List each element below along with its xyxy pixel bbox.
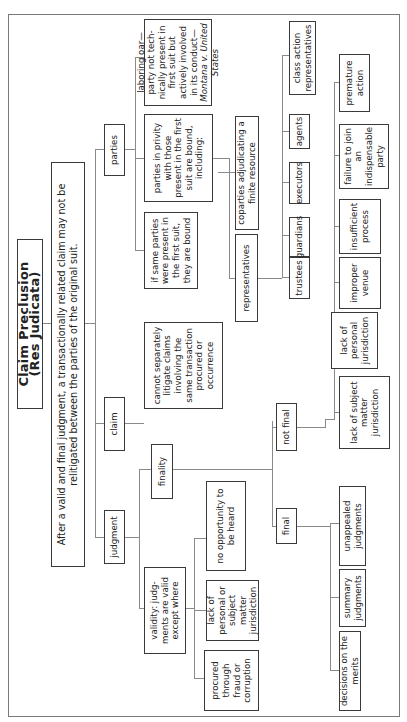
final-item-decisions-on-merits: decisions on the merits [339,631,361,711]
not-final-node: not final [276,403,297,451]
validity-exception-jurisdiction: lack of personal or subject matter juris… [206,580,259,641]
rep-type-agents: agents [289,114,310,149]
claim-preclusion-diagram: Claim Preclusion (Res Judicata) After a … [8,14,400,717]
connector [334,82,335,420]
connector [282,235,289,236]
not-final-item-subject-matter-jurisdiction: lack of subject matter jurisdiction [339,376,390,449]
connector [186,608,194,609]
connector [43,323,51,324]
laboring-oar-case: Montana v. United States [199,23,220,102]
connector [282,277,289,278]
connector [282,182,289,183]
validity-node: validity: judg-ments are valid except wh… [144,567,186,654]
laboring-oar-text: laboring oar—party not tech-nically pres… [136,23,200,102]
rep-type-trustees: trustees [289,257,310,299]
not-final-item-premature-action: premature action [339,54,370,112]
rep-type-guardians: guardians [289,217,310,257]
connector [125,537,139,538]
not-final-item-insufficient-process: insufficient process [339,199,381,254]
connector [139,469,140,609]
connector [139,469,151,470]
connector [194,538,206,539]
final-node: final [276,508,297,544]
not-final-item-personal-jurisdiction: lack of personal jurisdiction [331,312,378,369]
coparties-node: coparties adjudicating a finite resource [235,116,259,230]
claim-node: claim [104,397,125,451]
connector [194,678,204,679]
not-final-item-failure-to-join: failure to join an indispensable party [339,124,389,189]
laboring-oar-rule: laboring oar—party not tech-nically pres… [144,19,212,106]
connector [95,423,104,424]
connector [330,670,339,671]
same-parties-rule: if same parties were present in the firs… [144,212,198,289]
connector [325,419,334,420]
validity-exception-fraud: procured through fraud or corruption [204,650,259,711]
connector [272,421,273,527]
parties-node: parties [104,124,125,176]
connector [125,149,135,150]
connector [297,427,325,428]
connector [125,423,144,424]
final-item-unappealed-judgments: unappealed judgments [339,486,366,566]
diagram-title: Claim Preclusion (Res Judicata) [17,239,43,409]
connector [282,131,289,132]
connector [297,526,330,527]
connector [330,523,339,524]
connector [135,250,144,251]
claim-rule: cannot separately litigate claims involv… [144,322,223,409]
final-item-summary-judgments: summary judgments [339,569,366,627]
judgment-node: judgment [104,510,125,564]
connector [218,172,235,173]
not-final-item-improper-venue: improper venue [339,257,381,309]
connector [194,610,206,611]
connector [330,597,339,598]
connector [282,55,283,278]
subtitle-line-2: relitigated between the parties of the o… [68,243,81,485]
rep-type-class-action: class action representatives [289,21,316,95]
connector [95,149,96,538]
finality-node: finality [151,444,173,499]
rep-type-executors: executors [289,162,310,204]
connector [95,537,104,538]
diagram-subtitle: After a valid and final judgment, a tran… [51,162,85,567]
connector [95,149,104,150]
connector [135,158,144,159]
connector [85,323,95,324]
connector [173,469,272,470]
subtitle-line-1: After a valid and final judgment, a tran… [56,184,69,546]
connector [194,538,195,679]
connector [213,158,229,159]
connector [258,278,282,279]
privity-rule: parties in privity with those present in… [144,114,213,202]
representatives-node: representatives [235,234,258,322]
connector [325,420,326,428]
connector [282,55,289,56]
connector [229,158,230,279]
validity-exception-no-opportunity: no opportunity to be heard [206,481,246,571]
